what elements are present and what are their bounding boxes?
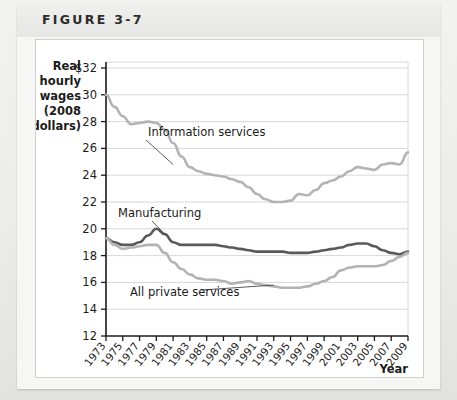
x-axis-title: Year [378,362,408,376]
figure-root: FIGURE 3-7 $3230282624222018161412 19731… [0,0,457,400]
series-annotation-label: All private services [130,285,239,299]
y-axis-tick-label: 16 [82,275,97,289]
y-axis-tick-label: 12 [82,329,97,343]
y-axis-tick-label: 26 [82,141,97,155]
y-axis-tick-label: 28 [82,115,97,129]
series-annotation-label: Information services [148,125,265,139]
y-axis-title-line: wages [40,89,81,103]
y-axis-tick-label: 22 [82,195,97,209]
y-axis-title-line: Real [53,59,81,73]
y-axis-title-line: hourly [40,74,82,88]
annotation-leader-line [152,221,165,234]
chart-panel: $3230282624222018161412 1973197519771979… [35,39,424,378]
y-axis-title: Realhourlywages(2008dollars) [36,59,81,133]
y-axis-title-line: dollars) [36,119,81,133]
figure-header: FIGURE 3-7 [17,5,440,37]
y-axis-tick-label: 24 [82,168,97,182]
y-axis-tick-label: 30 [82,88,97,102]
figure-card: FIGURE 3-7 $3230282624222018161412 19731… [17,5,440,389]
series-line [106,229,408,254]
annotation-leader-line [146,140,173,164]
y-axis-title-line: (2008 [44,104,81,118]
y-axis-tick-label: 18 [82,249,97,263]
series-line [106,238,408,288]
x-axis-tick-labels: 1973197519771979198119831985198719891991… [82,340,410,368]
line-chart: $3230282624222018161412 1973197519771979… [36,40,423,377]
series-lines [106,95,408,288]
y-axis-tick-label: 20 [82,222,97,236]
figure-number-label: FIGURE 3-7 [42,12,144,27]
series-annotation-label: Manufacturing [118,206,201,220]
y-axis-tick-label: 14 [82,302,97,316]
series-labels: Information servicesManufacturingAll pri… [118,125,265,299]
